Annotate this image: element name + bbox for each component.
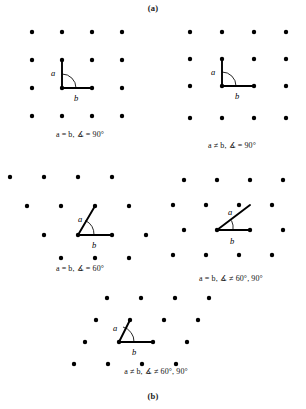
caption-square-lattice: a = b, ∡ = 90° (0, 130, 160, 139)
lattice-dots (188, 30, 288, 120)
lattice-dots (30, 30, 124, 118)
vector-label-b: b (92, 240, 96, 250)
vector-label-a: a (211, 67, 215, 77)
panel-rectangular-lattice: a b (178, 26, 304, 138)
vector-label-b: b (235, 91, 239, 101)
centered-rectangular-lattice-diagram: a b (166, 176, 304, 262)
figure-label-a: (a) (0, 3, 306, 13)
vector-label-a: a (228, 207, 232, 217)
panel-centered-rectangular-lattice: a b (166, 176, 304, 262)
vector-label-b: b (230, 236, 234, 246)
rectangular-lattice-diagram: a b (178, 26, 304, 138)
caption-oblique-lattice: a ≠ b, ∡ ≠ 60°, 90° (56, 367, 256, 376)
figure-label-b: (b) (0, 391, 306, 401)
angle-arc (86, 221, 95, 236)
caption-rectangular-lattice: a ≠ b, ∡ = 90° (158, 141, 306, 150)
angle-arc (232, 221, 234, 231)
lattice-dots (72, 296, 211, 366)
panel-hexagonal-lattice: a b (2, 172, 150, 260)
vector-label-a: a (51, 68, 55, 78)
panel-square-lattice: a b (18, 26, 146, 126)
basis-vector-a (119, 320, 130, 342)
angle-arc (222, 72, 236, 86)
oblique-lattice-diagram: a b (66, 294, 246, 366)
vector-label-b: b (74, 93, 78, 103)
caption-hexagonal-lattice: a = b, ∡ = 60° (0, 264, 160, 273)
square-lattice-diagram: a b (18, 26, 146, 126)
panel-oblique-lattice: a b (66, 294, 246, 366)
hexagonal-lattice-diagram: a b (2, 172, 150, 260)
vector-label-a: a (78, 214, 82, 224)
angle-arc (62, 74, 76, 88)
caption-centered-rectangular-lattice: a = b, ∡ ≠ 60°, 90° (156, 274, 306, 283)
lattice-dots (171, 178, 285, 257)
vector-label-a: a (113, 323, 117, 333)
vector-label-b: b (132, 347, 136, 357)
